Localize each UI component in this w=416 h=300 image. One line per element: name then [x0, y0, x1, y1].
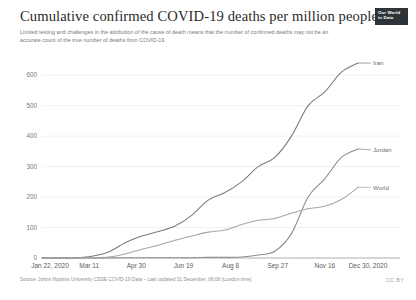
license-label: CC BY	[386, 277, 404, 283]
y-axis-tick-label: 500	[26, 102, 37, 109]
line-chart-svg: 0100200300400500600 Jan 22, 2020Mar 11Ap…	[0, 0, 416, 300]
series-label-world[interactable]: World	[373, 184, 389, 191]
y-axis-tick-label: 400	[26, 132, 37, 139]
y-axis-tick-label: 100	[26, 224, 37, 231]
x-axis-tick-label: Nov 16	[315, 262, 336, 269]
y-axis-tick-label: 200	[26, 193, 37, 200]
x-axis-tick-label: Aug 8	[222, 262, 239, 270]
plot-area: 0100200300400500600 Jan 22, 2020Mar 11Ap…	[0, 0, 416, 300]
series-label-jordan[interactable]: Jordan	[373, 146, 392, 153]
y-axis-tick-label: 600	[26, 71, 37, 78]
series-line-iran[interactable]	[42, 63, 358, 258]
x-axis-tick-label: Mar 11	[79, 262, 99, 269]
x-axis-tick-labels: Jan 22, 2020Mar 11Apr 30Jun 19Aug 8Sep 2…	[31, 262, 388, 270]
chart-card: Cumulative confirmed COVID-19 deaths per…	[0, 0, 416, 300]
y-axis-tick-label: 300	[26, 163, 37, 170]
series-line-jordan[interactable]	[42, 149, 358, 258]
chart-footer: Source: Johns Hopkins University CSSE CO…	[20, 277, 406, 282]
x-axis-tick-label: Dec 30, 2020	[349, 262, 388, 269]
x-axis-tick-label: Apr 30	[127, 262, 147, 270]
y-axis-tick-label: 0	[33, 254, 37, 261]
x-axis-tick-label: Jan 22, 2020	[31, 262, 69, 269]
source-note: Source: Johns Hopkins University CSSE CO…	[20, 277, 406, 282]
gridlines-group	[42, 75, 400, 227]
y-axis-tick-labels: 0100200300400500600	[26, 71, 37, 261]
x-axis-tick-label: Sep 27	[267, 262, 288, 270]
series-line-world[interactable]	[42, 187, 358, 258]
series-labels-group: IranJordanWorld	[373, 59, 392, 190]
x-axis-tick-label: Jun 19	[174, 262, 194, 269]
series-leader-jordan	[358, 149, 371, 150]
series-label-iran[interactable]: Iran	[373, 59, 384, 66]
series-group	[42, 63, 371, 258]
